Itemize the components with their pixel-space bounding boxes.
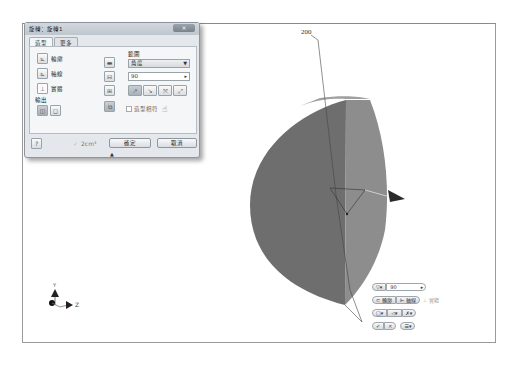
mini-cancel-button[interactable]: ✕ (384, 322, 396, 330)
mini-axis-label: 軸線 (406, 296, 416, 303)
solid-label: 實體 (51, 85, 63, 93)
axis-label: 軸線 (51, 70, 63, 78)
solid-icon[interactable]: ⊥ (37, 83, 48, 94)
revolved-body-right-face[interactable] (345, 100, 387, 305)
intersect-icon[interactable]: ⊞ (104, 85, 115, 96)
mini-extent-type-button[interactable]: ▽▾ (372, 283, 386, 291)
direction-1-icon[interactable]: ↗ (128, 85, 142, 96)
dimension-extension-line (345, 305, 362, 322)
chevron-right-icon: ▸ (421, 284, 424, 290)
extents-label: 範圍 (128, 50, 140, 58)
asymmetric-icon[interactable]: ⤢ (173, 85, 187, 96)
mini-value-row: ▽▾ 90 ▸ (372, 282, 439, 291)
view-triad (49, 289, 73, 309)
checkbox-box[interactable] (126, 106, 132, 112)
mini-output-dropdown[interactable]: □▾ (372, 309, 387, 317)
ok-button[interactable]: 確定 (109, 138, 151, 148)
mini-options-row: □▾ ◁▾ ✗▾ (372, 308, 439, 317)
shape-panel: ⊾ 輪廓 ⊾ 軸線 ⊥ 實體 輸出 ◫ ◻ ▬ ⊟ ⊞ ⧉ 範圍 角度 ▼ (29, 46, 197, 134)
angle-input[interactable]: 90 ▸ (128, 72, 190, 81)
mini-direction-dropdown[interactable]: ◁▾ (387, 309, 401, 317)
volume-readout: ✓ 2cm³ (73, 140, 96, 147)
extents-type-dropdown[interactable]: 角度 ▼ (128, 59, 190, 68)
tab-shape[interactable]: 造型 (29, 37, 53, 46)
mini-selection-row: ⊂ 輪廓 ⊩ 軸線 ⊥ 實體 (372, 295, 439, 304)
expand-arrow-icon[interactable]: ▲ (110, 151, 114, 157)
match-shape-label: 造型相符 (134, 105, 158, 113)
dialog-title: 旋轉：旋轉1 (29, 25, 63, 33)
join-icon[interactable]: ▬ (104, 57, 115, 68)
profile-icon[interactable]: ⊾ (37, 53, 48, 64)
mini-toolbar: ▽▾ 90 ▸ ⊂ 輪廓 ⊩ 軸線 ⊥ 實體 □▾ ◁▾ ✗▾ ✔ ✕ ☰▾ (372, 282, 439, 334)
chevron-down-icon: ▼ (183, 60, 187, 67)
cancel-button[interactable]: 取消 (157, 138, 197, 148)
revolve-dialog: 旋轉：旋轉1 × 造型 更多 ⊾ 輪廓 ⊾ 軸線 ⊥ 實體 輸出 ◫ ◻ ▬ ⊟… (24, 22, 200, 158)
cut-icon[interactable]: ⊟ (104, 71, 115, 82)
tab-more[interactable]: 更多 (54, 37, 78, 46)
surface-output-icon[interactable]: ◻ (50, 105, 61, 116)
operation-buttons: ▬ ⊟ ⊞ ⧉ (104, 57, 115, 112)
axis-icon[interactable]: ⊾ (37, 68, 48, 79)
close-button[interactable]: × (173, 24, 195, 32)
mini-menu-button[interactable]: ☰▾ (400, 322, 415, 330)
help-icon[interactable]: ? (31, 138, 42, 149)
mini-angle-value: 90 (390, 284, 396, 290)
mini-axis-button[interactable]: ⊩ 軸線 (396, 296, 420, 304)
symmetric-icon[interactable]: ⤧ (158, 85, 172, 96)
mini-solid-label: 實體 (429, 297, 439, 303)
axis-selector[interactable]: ⊾ 軸線 (37, 68, 63, 79)
solid-selector[interactable]: ⊥ 實體 (37, 83, 63, 94)
match-shape-checkbox[interactable]: 造型相符 ☝ (126, 104, 167, 114)
triad-y-label: Y (53, 282, 56, 288)
dimension-value-label[interactable]: 200 (301, 28, 312, 36)
mini-profile-button[interactable]: ⊂ 輪廓 (372, 296, 396, 304)
chevron-right-icon: ▸ (184, 73, 187, 80)
mini-operation-dropdown[interactable]: ✗▾ (402, 309, 417, 317)
direction-2-icon[interactable]: ↘ (143, 85, 157, 96)
profile-selector[interactable]: ⊾ 輪廓 (37, 53, 63, 64)
dialog-titlebar[interactable]: 旋轉：旋轉1 × (25, 23, 199, 35)
volume-text: 2cm³ (81, 140, 96, 147)
hand-cursor-icon: ☝ (162, 104, 167, 114)
mini-solid-button[interactable]: ⊥ 實體 (423, 296, 439, 303)
direction-buttons: ↗ ↘ ⤧ ⤢ (128, 85, 187, 96)
check-icon: ✓ (73, 140, 78, 147)
new-solid-icon[interactable]: ⧉ (104, 101, 115, 112)
mini-actions-row: ✔ ✕ ☰▾ (372, 321, 439, 330)
triad-z-label: Z (75, 301, 79, 308)
angle-value: 90 (131, 73, 138, 79)
mini-angle-input[interactable]: 90 ▸ (386, 283, 426, 291)
solid-output-icon[interactable]: ◫ (37, 105, 48, 116)
profile-label: 輪廓 (51, 55, 63, 63)
axis-icon: ⊩ (400, 297, 404, 303)
dialog-footer: ? ✓ 2cm³ 確定 取消 (25, 136, 199, 152)
profile-icon: ⊂ (376, 297, 380, 303)
output-buttons: ◫ ◻ (37, 105, 61, 116)
center-point (346, 213, 348, 215)
extents-type-value: 角度 (131, 60, 143, 66)
drag-arrow-icon[interactable] (388, 190, 405, 202)
output-label: 輸出 (35, 96, 47, 104)
revolved-body-left-face[interactable] (250, 100, 346, 305)
dialog-tabs: 造型 更多 (25, 35, 199, 46)
mini-ok-button[interactable]: ✔ (372, 322, 384, 330)
mini-profile-label: 輪廓 (382, 296, 392, 303)
